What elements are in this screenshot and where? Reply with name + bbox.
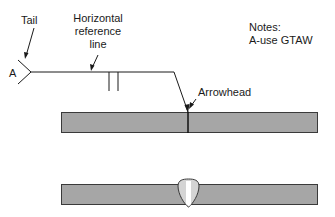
tail-lower-arm [18, 72, 31, 84]
tail-note-letter: A [9, 67, 17, 79]
square-groove-symbol [109, 72, 118, 91]
reference-label-line1: Horizontal [73, 12, 123, 24]
reference-label-line3: line [89, 38, 106, 50]
plate-unwelded [62, 113, 318, 133]
tail-leader [26, 28, 34, 56]
notes-text: A-use GTAW [249, 34, 313, 46]
arrow-tip-icon [185, 104, 190, 113]
tail-symbol [18, 60, 31, 84]
weld-bead-center [186, 181, 191, 206]
notes-title: Notes: [249, 21, 281, 33]
arrowhead-label: Arrowhead [198, 86, 251, 98]
tail-upper-arm [18, 60, 31, 72]
weld-symbol-diagram: A Tail Horizontal reference line Arrowhe… [0, 0, 335, 217]
tail-label: Tail [21, 14, 38, 26]
reference-label-line2: reference [75, 25, 121, 37]
tail-leader-arrow-icon [24, 52, 29, 59]
